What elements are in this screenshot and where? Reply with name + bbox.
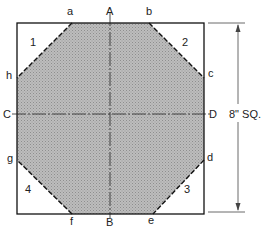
label-B: B <box>106 216 113 228</box>
label-C: C <box>3 108 11 120</box>
label-D: D <box>209 108 217 120</box>
label-region-3: 3 <box>184 183 190 195</box>
dimension-label: 8" SQ. <box>229 108 261 120</box>
label-c: c <box>208 67 214 79</box>
label-b: b <box>146 5 152 17</box>
label-f: f <box>70 215 74 227</box>
label-h: h <box>6 69 12 81</box>
label-e: e <box>148 214 154 226</box>
label-region-2: 2 <box>182 36 188 48</box>
label-A: A <box>106 5 114 17</box>
arrow-up-icon <box>236 24 241 32</box>
label-a: a <box>67 5 74 17</box>
octagon-diagram: a A b 1 2 h c C D 8" SQ. g d 4 3 f B e <box>0 0 270 229</box>
octagon-shape <box>17 23 204 214</box>
arrow-down-icon <box>236 203 241 211</box>
label-region-1: 1 <box>30 36 36 48</box>
label-g: g <box>7 152 13 164</box>
label-region-4: 4 <box>25 183 31 195</box>
label-d: d <box>207 151 213 163</box>
